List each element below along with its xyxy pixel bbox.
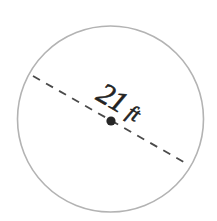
- diameter-unit-label: ft: [123, 100, 146, 127]
- circle-diagram-canvas: 21 ft: [0, 0, 217, 221]
- center-dot: [106, 116, 115, 125]
- diameter-label-group: 21 ft: [92, 76, 150, 128]
- geometry-figure: 21 ft: [0, 0, 217, 221]
